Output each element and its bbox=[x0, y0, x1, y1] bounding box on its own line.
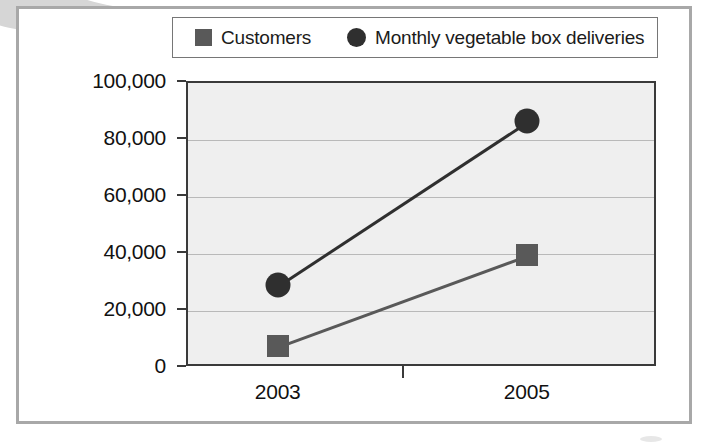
data-point-circle bbox=[265, 272, 290, 297]
y-axis-tick-label: 60,000 bbox=[34, 183, 166, 207]
gridline bbox=[188, 311, 654, 312]
data-point-square bbox=[516, 244, 538, 266]
data-point-square bbox=[267, 335, 289, 357]
legend-label-customers: Customers bbox=[221, 27, 311, 49]
gridline bbox=[188, 140, 654, 141]
y-axis-tick-mark bbox=[177, 365, 186, 367]
y-axis-tick-mark bbox=[177, 308, 186, 310]
legend-item-customers: Customers bbox=[195, 27, 311, 49]
x-axis-tick-label: 2003 bbox=[255, 380, 301, 404]
figure-page: Customers Monthly vegetable box deliveri… bbox=[0, 0, 717, 444]
y-axis-tick-label: 20,000 bbox=[34, 297, 166, 321]
legend-item-deliveries: Monthly vegetable box deliveries bbox=[347, 27, 644, 49]
y-axis-tick-mark bbox=[177, 251, 186, 253]
y-axis-tick-label: 100,000 bbox=[34, 69, 166, 93]
chart-plot: 020,00040,00060,00080,000100,00020032005 bbox=[0, 0, 717, 444]
y-axis-tick-mark bbox=[177, 137, 186, 139]
square-marker-icon bbox=[195, 29, 212, 46]
y-axis-tick-mark bbox=[177, 194, 186, 196]
x-axis-tick-label: 2005 bbox=[504, 380, 550, 404]
chart-legend: Customers Monthly vegetable box deliveri… bbox=[172, 17, 658, 58]
y-axis-tick-label: 40,000 bbox=[34, 240, 166, 264]
y-axis-tick-label: 80,000 bbox=[34, 126, 166, 150]
plot-area bbox=[186, 81, 656, 366]
data-point-circle bbox=[514, 108, 539, 133]
gridline bbox=[188, 254, 654, 255]
x-axis-tick-mark bbox=[402, 366, 404, 378]
gridline bbox=[188, 197, 654, 198]
y-axis-tick-label: 0 bbox=[34, 354, 166, 378]
legend-label-deliveries: Monthly vegetable box deliveries bbox=[375, 27, 644, 49]
y-axis-tick-mark bbox=[177, 80, 186, 82]
circle-marker-icon bbox=[347, 28, 366, 47]
